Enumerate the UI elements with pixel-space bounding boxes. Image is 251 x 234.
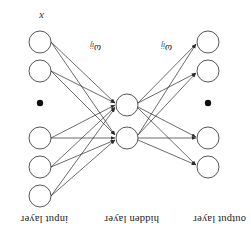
input-node [29, 185, 51, 207]
output-layer-nodes [197, 31, 219, 178]
input-variable-label: x [39, 11, 44, 23]
weight-symbol: ω [165, 43, 172, 54]
rotated-figure-content: output layer hidden layer input layer ωi… [0, 0, 251, 234]
weight-symbol: ω [94, 43, 101, 54]
output-node [197, 60, 219, 82]
output-ellipsis-dot [205, 100, 211, 106]
output-node [197, 31, 219, 53]
hidden-layer-caption: hidden layer [104, 214, 159, 225]
weight-label-hidden-to-output: ωij [161, 41, 172, 54]
input-ellipsis-dot [37, 100, 43, 106]
hidden-layer-nodes [116, 94, 138, 149]
input-node [29, 60, 51, 82]
output-node [197, 156, 219, 178]
neural-network-figure: output layer hidden layer input layer ωi… [0, 0, 251, 234]
input-layer-caption: input layer [21, 214, 68, 225]
output-layer-caption: output layer [193, 214, 246, 225]
network-graph [0, 0, 251, 234]
input-node [29, 156, 51, 178]
edges-input-to-hidden [51, 42, 115, 196]
input-layer-nodes [29, 31, 51, 207]
hidden-node [116, 127, 138, 149]
weight-label-input-to-hidden: ωij [90, 41, 101, 54]
weight-subscript: ij [90, 41, 94, 49]
input-node [29, 127, 51, 149]
edges-hidden-to-output [138, 44, 196, 165]
hidden-node [116, 94, 138, 116]
output-node [197, 127, 219, 149]
weight-subscript: ij [161, 41, 165, 49]
input-node [29, 31, 51, 53]
